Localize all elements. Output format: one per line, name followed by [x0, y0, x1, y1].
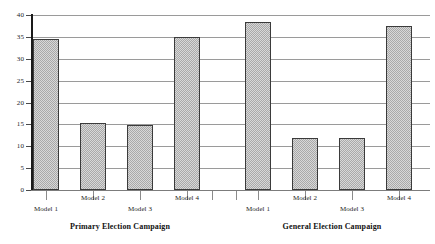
x-axis-tick-label: Model 3 — [329, 205, 375, 213]
gridline — [31, 81, 430, 82]
bar — [33, 39, 59, 190]
y-axis-tick-label: 5 — [0, 164, 24, 172]
gridline — [31, 59, 430, 60]
bar — [292, 138, 318, 190]
y-axis-tick-label: 25 — [0, 77, 24, 85]
y-axis-tick-label: 35 — [0, 33, 24, 41]
y-axis-tick-label: 15 — [0, 120, 24, 128]
bar — [127, 125, 153, 190]
y-axis-tick-label: 20 — [0, 99, 24, 107]
y-axis-tick-label: 30 — [0, 55, 24, 63]
x-axis-tick-mark — [140, 191, 141, 200]
panel-caption-left: Primary Election Campaign — [40, 222, 200, 231]
panel-caption-right: General Election Campaign — [248, 222, 416, 231]
gridline — [31, 103, 430, 104]
bar — [339, 138, 365, 190]
y-axis-tick-label: 10 — [0, 142, 24, 150]
x-axis-tick-label: Model 1 — [23, 205, 69, 213]
y-axis-tick-label: 40 — [0, 11, 24, 19]
x-axis-tick-label: Model 4 — [164, 194, 210, 202]
y-axis-tick-label: 0 — [0, 186, 24, 194]
x-axis-tick-label: Model 4 — [376, 194, 422, 202]
x-axis-tick-label: Model 3 — [117, 205, 163, 213]
x-axis-tick-label: Model 1 — [235, 205, 281, 213]
x-axis-line — [31, 190, 430, 191]
x-axis-tick-mark — [352, 191, 353, 200]
bar-chart-figure: 0510152025303540 Model 1Model 2Model 3Mo… — [0, 0, 435, 244]
gridline — [31, 37, 430, 38]
gridline — [31, 15, 430, 16]
x-axis-tick-label: Model 2 — [70, 194, 116, 202]
x-axis-tick-mark — [46, 191, 47, 200]
bar — [80, 123, 106, 190]
x-axis-panel-separator-tick — [212, 191, 213, 200]
x-axis-tick-label: Model 2 — [282, 194, 328, 202]
x-axis-tick-mark — [258, 191, 259, 200]
x-axis-panel-separator-tick — [236, 191, 237, 200]
bar — [174, 37, 200, 190]
bar — [245, 22, 271, 190]
bar — [386, 26, 412, 191]
